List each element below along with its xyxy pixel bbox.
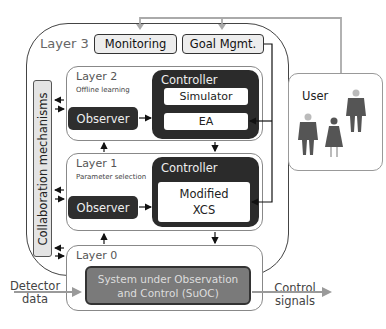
user-feedback-line	[140, 18, 341, 73]
goal-mgmt-connector	[250, 44, 272, 202]
user-figures-icon	[298, 90, 366, 158]
connector-overlay	[0, 0, 386, 329]
collaboration-arrows	[55, 100, 64, 256]
arrow-down-icon	[218, 24, 226, 30]
arrow-down-icon	[136, 24, 144, 30]
